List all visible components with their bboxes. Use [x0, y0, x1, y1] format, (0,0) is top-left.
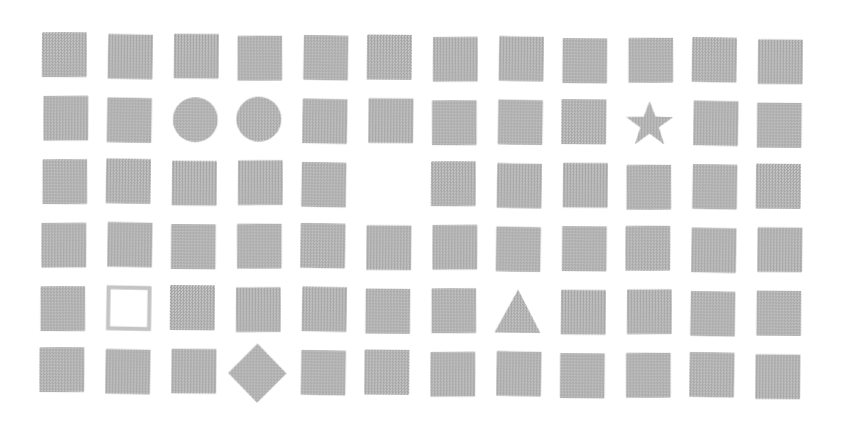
square-shape	[106, 223, 151, 268]
square-shape	[497, 100, 542, 145]
square-shape	[105, 349, 150, 394]
square-shape	[431, 225, 476, 270]
square-shape	[238, 35, 283, 80]
square-shape	[41, 285, 86, 330]
square-shape	[170, 349, 215, 394]
square-shape	[107, 160, 152, 205]
square-shape	[433, 36, 478, 81]
square-shape	[236, 287, 281, 332]
square-shape	[691, 227, 736, 272]
square-shape	[172, 160, 217, 205]
square-shape	[560, 352, 605, 397]
square-shape	[171, 223, 216, 268]
square-shape	[107, 97, 152, 142]
square-shape	[693, 38, 738, 83]
circle-shape	[237, 98, 282, 143]
triangle-shape	[496, 289, 541, 334]
square-shape	[562, 163, 607, 208]
star-shape	[627, 101, 672, 146]
scanned-page	[0, 0, 842, 446]
square-shape	[301, 224, 346, 269]
empty-cell	[367, 162, 412, 207]
square-shape	[495, 352, 540, 397]
square-shape	[303, 35, 348, 80]
square-shape	[171, 286, 216, 331]
square-shape	[432, 99, 477, 144]
square-shape	[236, 224, 281, 269]
square-shape	[691, 290, 736, 335]
square-shape	[756, 291, 801, 336]
square-shape	[430, 351, 475, 396]
outline-square-shape	[106, 286, 151, 331]
square-shape	[561, 289, 606, 334]
square-shape	[497, 163, 542, 208]
square-shape	[301, 287, 346, 332]
square-shape	[757, 102, 802, 147]
square-shape	[692, 101, 737, 146]
square-shape	[756, 228, 801, 273]
square-shape	[302, 161, 347, 206]
circle-shape	[172, 97, 217, 142]
diamond-shape	[235, 350, 280, 395]
square-shape	[40, 348, 85, 393]
square-shape	[302, 98, 347, 143]
square-shape	[758, 39, 803, 84]
square-shape	[42, 159, 87, 204]
square-shape	[628, 38, 673, 83]
square-shape	[563, 37, 608, 82]
square-shape	[496, 226, 541, 271]
square-shape	[368, 36, 413, 81]
square-shape	[562, 100, 607, 145]
square-shape	[755, 354, 800, 399]
square-shape	[108, 34, 153, 79]
square-shape	[627, 164, 672, 209]
square-shape	[626, 290, 671, 335]
square-shape	[626, 227, 671, 272]
square-shape	[237, 161, 282, 206]
square-shape	[498, 37, 543, 82]
square-shape	[690, 353, 735, 398]
square-shape	[42, 96, 87, 141]
square-shape	[43, 33, 88, 78]
square-shape	[300, 350, 345, 395]
square-shape	[757, 165, 802, 210]
square-shape	[432, 162, 477, 207]
square-shape	[561, 226, 606, 271]
square-shape	[365, 351, 410, 396]
square-shape	[431, 288, 476, 333]
square-shape	[366, 288, 411, 333]
square-shape	[173, 34, 218, 79]
square-shape	[625, 353, 670, 398]
square-shape	[367, 99, 412, 144]
square-shape	[692, 164, 737, 209]
square-shape	[366, 225, 411, 270]
shape-grid	[40, 33, 803, 399]
square-shape	[41, 222, 86, 267]
